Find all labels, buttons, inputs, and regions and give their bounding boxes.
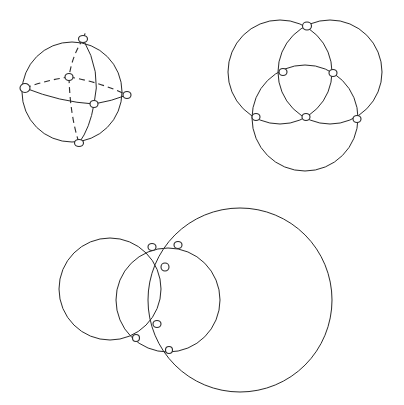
vertex-node [329,70,337,77]
vertex-node [302,114,310,121]
hidden-edge [25,77,69,88]
sphere-graph-figure [20,31,131,147]
asymmetric-three-circles-figure [59,208,332,392]
vertex-node [279,69,287,76]
symmetric-three-circles-figure [228,20,382,171]
vertex-node [90,101,98,108]
vertex-node [153,321,161,328]
vertex-node [303,22,312,30]
vertex-node [123,92,131,99]
visible-edge [94,95,127,104]
vertex-node [161,263,169,271]
vertex-node [252,114,260,121]
hidden-edge [69,77,79,143]
vertex-node [148,244,156,251]
vertex-node [79,36,88,43]
hidden-edge [69,39,83,77]
vertex-node [353,116,361,123]
hidden-edge [69,77,127,95]
circle-arc [148,208,332,392]
vertex-node [20,84,30,93]
vertex-node [75,140,84,147]
diagram-canvas [0,0,404,405]
vertex-node [133,335,140,342]
vertex-node [166,347,173,354]
visible-edge [83,39,96,104]
visible-edge [79,104,94,143]
vertex-node [174,242,182,249]
visible-edge [25,88,94,104]
vertex-node [65,74,73,81]
